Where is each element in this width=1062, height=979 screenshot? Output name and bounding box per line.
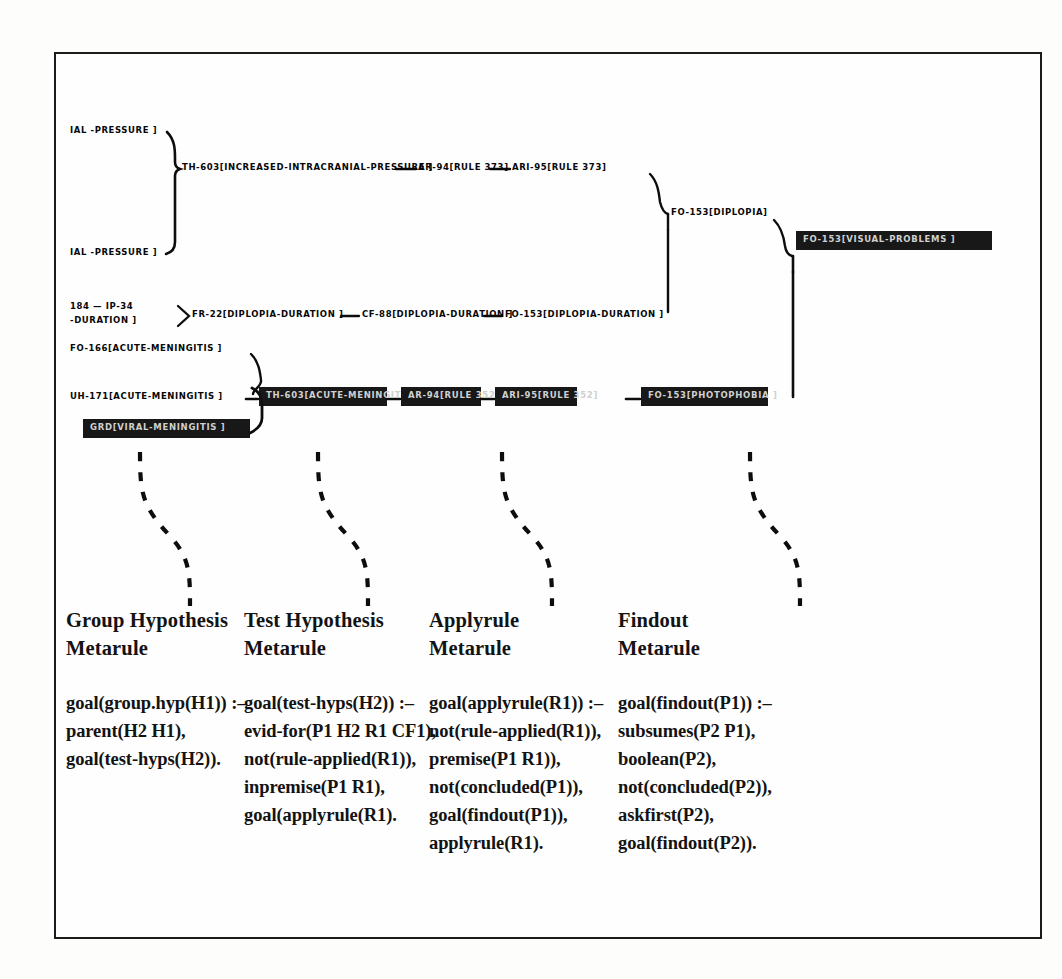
metarule-title: Test Hypothesis Metarule (244, 606, 459, 663)
metarule-title: Applyrule Metarule (429, 606, 644, 663)
trace-node-ar94-rule352[interactable]: AR-94[RULE 352] (401, 387, 481, 406)
trace-node-ar94-rule373[interactable]: AR-94[RULE 373] (418, 163, 509, 173)
metarule-column-applyrule: Applyrule Metarule goal(applyrule(R1)) :… (429, 606, 644, 857)
metarule-column-findout: Findout Metarule goal(findout(P1)) :– su… (618, 606, 833, 857)
trace-node-fo153-photophobia[interactable]: FO-153[PHOTOPHOBIA ] (641, 387, 768, 406)
trace-node-ari95-rule352[interactable]: ARI-95[RULE 352] (495, 387, 577, 406)
metarule-code: goal(applyrule(R1)) :– not(rule-applied(… (429, 689, 644, 858)
trace-node-th603-acute-meningitis[interactable]: TH-603[ACUTE-MENINGITIS ] (259, 387, 387, 406)
metarule-column-test-hypothesis: Test Hypothesis Metarule goal(test-hyps(… (244, 606, 459, 829)
trace-node-ari95-rule373[interactable]: ARI-95[RULE 373] (512, 163, 606, 173)
trace-node-cf88-diplopia-duration[interactable]: CF-88[DIPLOPIA-DURATION ] (362, 310, 513, 320)
trace-node-duration[interactable]: -DURATION ] (70, 316, 137, 326)
trace-node-fr22-diplopia-duration[interactable]: FR-22[DIPLOPIA-DURATION ] (192, 310, 343, 320)
metarule-code: goal(test-hyps(H2)) :– evid-for(P1 H2 R1… (244, 689, 459, 830)
metarule-code: goal(findout(P1)) :– subsumes(P2 P1), bo… (618, 689, 833, 858)
trace-node-grd-viral-meningitis[interactable]: GRD[VIRAL-MENINGITIS ] (83, 419, 250, 438)
trace-node-ial-pressure-bottom[interactable]: IAL -PRESSURE ] (70, 248, 157, 258)
trace-node-184-ip34[interactable]: 184 — IP-34 (70, 302, 133, 312)
trace-node-fo153-visual-problems[interactable]: FO-153[VISUAL-PROBLEMS ] (796, 231, 992, 250)
trace-node-fo153-diplopia[interactable]: FO-153[DIPLOPIA] (671, 208, 768, 218)
figure-page: IAL -PRESSURE ] IAL -PRESSURE ] TH-603[I… (0, 0, 1062, 979)
trace-node-th603-increased-intracranial-pressure[interactable]: TH-603[INCREASED-INTRACRANIAL-PRESSURE ] (182, 163, 433, 173)
trace-node-ial-pressure-top[interactable]: IAL -PRESSURE ] (70, 126, 157, 136)
trace-node-fo153-diplopia-duration[interactable]: FO-153[DIPLOPIA-DURATION ] (505, 310, 664, 320)
trace-node-uh171-acute-meningitis[interactable]: UH-171[ACUTE-MENINGITIS ] (70, 392, 223, 402)
metarule-title: Findout Metarule (618, 606, 833, 663)
figure-frame: IAL -PRESSURE ] IAL -PRESSURE ] TH-603[I… (54, 52, 1042, 939)
trace-node-fo166-acute-meningitis[interactable]: FO-166[ACUTE-MENINGITIS ] (70, 344, 222, 354)
